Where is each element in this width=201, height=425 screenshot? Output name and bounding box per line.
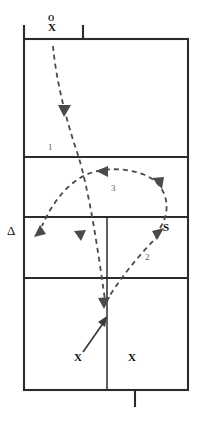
- marker-x-back-left: X: [74, 352, 82, 363]
- marker-x-back-right: X: [128, 352, 136, 363]
- marker-triangle-left: Δ: [7, 224, 15, 237]
- court-lines: [24, 25, 188, 407]
- marker-x-top: X: [48, 22, 56, 33]
- volleyball-court-diagram: O X Δ S X X 1 2 3: [0, 0, 201, 425]
- path-label-1: 1: [48, 143, 53, 152]
- player-movement-arrow: [83, 316, 107, 352]
- marker-s-right: S: [163, 222, 169, 233]
- player-movement-line: [83, 322, 104, 352]
- path-1-line: [53, 46, 105, 300]
- path-2-pass: [106, 228, 164, 302]
- path-3-arrowhead-end: [34, 225, 46, 237]
- path-3-line: [42, 169, 167, 228]
- path-label-2: 2: [145, 253, 150, 262]
- court-graphic: [0, 0, 201, 425]
- court-outline: [24, 39, 188, 390]
- path-3-arrowhead-apex: [96, 166, 108, 177]
- path-1-arrowhead-mid: [58, 105, 71, 117]
- path-3-set: [34, 166, 167, 237]
- path-2-line: [106, 236, 158, 302]
- path-1-arrowhead-lower: [74, 230, 86, 241]
- path-3-arrowhead-right: [152, 177, 164, 189]
- path-label-3: 3: [111, 184, 116, 193]
